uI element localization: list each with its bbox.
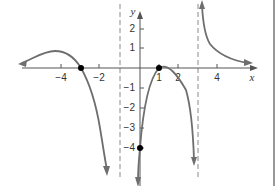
y-axis: 2 1 −1 −2 −3 −4 y — [124, 5, 144, 186]
curve-left-branch — [22, 51, 107, 170]
x-tick-label: 4 — [214, 72, 220, 83]
point-y-intercept-neg4 — [137, 145, 143, 151]
x-tick-label: −4 — [55, 72, 67, 83]
point-x-intercept-neg3 — [78, 65, 84, 71]
y-axis-label: y — [130, 5, 136, 17]
curve-middle-branch — [138, 67, 194, 182]
arrow-left-icon — [18, 60, 27, 67]
rational-function-graph: −4 −2 1 2 4 x 2 1 −1 −2 −3 −4 y — [0, 0, 278, 186]
arrow-down-icon — [191, 157, 197, 166]
x-tick-label: 1 — [156, 72, 162, 83]
y-tick-label: −4 — [124, 142, 136, 153]
y-tick-label: −3 — [124, 122, 136, 133]
y-tick-label: −2 — [124, 102, 136, 113]
y-tick-label: −1 — [124, 82, 136, 93]
point-x-intercept-1 — [156, 65, 162, 71]
x-axis-label: x — [249, 71, 255, 83]
arrow-down-icon — [103, 166, 110, 176]
y-tick-label: 1 — [129, 42, 135, 53]
x-tick-label: −2 — [93, 72, 105, 83]
arrow-up-icon — [199, 0, 205, 9]
y-tick-label: 2 — [129, 23, 135, 34]
y-axis-arrow-icon — [137, 11, 143, 19]
arrow-right-icon — [244, 59, 253, 66]
curve-right-branch — [202, 5, 248, 63]
